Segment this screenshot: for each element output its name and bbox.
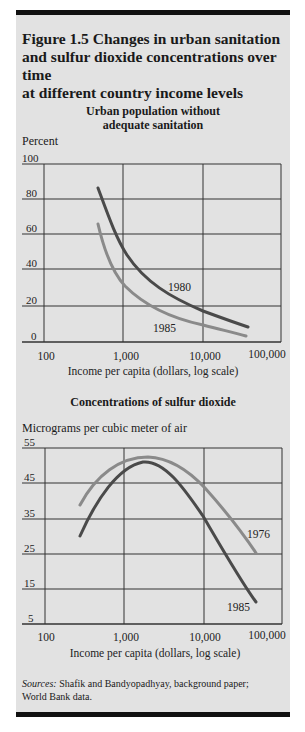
y-tick: 25 [24, 542, 36, 554]
charts-canvas: 100 80 60 40 20 0 1980 1985 100 1,000 10… [0, 0, 305, 732]
y-tick: 80 [26, 187, 38, 199]
chart2-plot: 55 45 35 25 15 5 1976 1985 100 1,000 10,… [22, 436, 286, 660]
chart2-x-ticks: 100 1,000 10,000 100,000 [37, 629, 286, 644]
chart1-grid [22, 164, 281, 342]
y-tick: 5 [28, 612, 34, 624]
x-tick: 100,000 [248, 629, 286, 642]
y-tick: 15 [24, 577, 36, 589]
sources-text-2: World Bank data. [22, 691, 92, 702]
y-tick: 35 [24, 507, 36, 519]
x-tick: 100 [37, 350, 55, 362]
chart2-label-1985: 1985 [227, 601, 250, 613]
y-tick: 40 [26, 257, 38, 269]
y-tick: 60 [26, 222, 38, 234]
sources-text: Shafik and Bandyopadhyay, background pap… [57, 678, 249, 689]
chart1-x-ticks: 100 1,000 10,000 100,000 [37, 348, 286, 363]
chart1-label-1980: 1980 [168, 281, 191, 293]
x-tick: 100 [37, 631, 55, 643]
sources-note: Sources: Shafik and Bandyopadhyay, backg… [22, 677, 284, 703]
chart2-label-1976: 1976 [247, 528, 270, 540]
chart1-label-1985: 1985 [153, 322, 176, 334]
chart2-x-axis-label: Income per capita (dollars, log scale) [70, 647, 241, 660]
y-tick: 55 [24, 436, 36, 448]
x-tick: 1,000 [113, 631, 139, 644]
y-tick: 100 [22, 152, 39, 164]
x-tick: 1,000 [113, 350, 139, 363]
x-tick: 10,000 [189, 631, 221, 644]
y-tick: 45 [24, 471, 36, 483]
y-tick: 20 [26, 294, 38, 306]
chart1-y-ticks: 100 80 60 40 20 0 [22, 152, 39, 342]
chart1-plot: 100 80 60 40 20 0 1980 1985 100 1,000 10… [22, 152, 286, 378]
x-tick: 100,000 [248, 348, 286, 361]
x-tick: 10,000 [189, 350, 221, 363]
chart2-y-ticks: 55 45 35 25 15 5 [24, 436, 36, 624]
y-tick: 0 [31, 330, 37, 342]
sources-label: Sources: [22, 678, 57, 689]
chart1-x-axis-label: Income per capita (dollars, log scale) [68, 365, 239, 378]
